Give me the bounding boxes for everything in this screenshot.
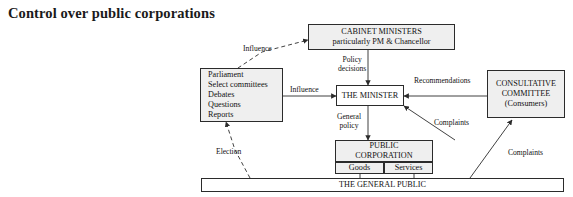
edge-label-influence-cabinet: Influence [243, 44, 272, 53]
node-parliament-line-3: Debates [208, 90, 234, 100]
node-committee-line-1: CONSULTATIVE [496, 79, 556, 89]
node-cabinet-line-2: particularly PM & Chancellor [333, 37, 431, 47]
edge-label-policy: Policy decisions [338, 56, 366, 73]
node-consultative-committee[interactable]: CONSULTATIVE COMMITTEE (Consumers) [487, 70, 565, 118]
edge-label-general-policy-text: General policy [337, 113, 361, 130]
node-parliament-line-2: Select committees [208, 80, 268, 90]
node-parliament-line-1: Parliament [208, 70, 243, 80]
edge-label-policy-decisions: Policy decisions [338, 56, 366, 73]
node-goods[interactable]: Goods [335, 162, 384, 174]
node-services-label: Services [395, 163, 423, 173]
node-parliament-line-4: Questions [208, 100, 241, 110]
edge-label-general-policy: General policy [337, 113, 361, 130]
node-committee-line-3: (Consumers) [505, 99, 547, 109]
page-title: Control over public corporations [8, 5, 215, 22]
edge-label-influence-minister: Influence [290, 85, 319, 94]
node-general-public[interactable]: THE GENERAL PUBLIC [201, 178, 564, 192]
node-cabinet-line-1: CABINET MINISTERS [341, 27, 422, 37]
node-parliament-line-5: Reports [208, 110, 233, 120]
node-general-public-label: THE GENERAL PUBLIC [339, 180, 426, 190]
edge-label-election: Election [216, 147, 241, 156]
node-services[interactable]: Services [384, 162, 433, 174]
edge-label-complaints-to-minister: Complaints [434, 118, 469, 127]
node-parliament[interactable]: Parliament Select committees Debates Que… [200, 68, 283, 122]
node-public-corporation[interactable]: PUBLIC CORPORATION [335, 140, 433, 162]
edge-label-complaints-from-public: Complaints [508, 148, 543, 157]
node-goods-label: Goods [349, 163, 370, 173]
diagram-canvas: Control over public corporations CABINET… [0, 0, 573, 197]
connector-public-to-committee [470, 120, 512, 178]
node-cabinet-ministers[interactable]: CABINET MINISTERS particularly PM & Chan… [308, 24, 455, 50]
node-corporation-line-2: CORPORATION [355, 151, 412, 161]
edge-label-recommendations: Recommendations [414, 76, 471, 85]
node-committee-line-2: COMMITTEE [502, 89, 551, 99]
node-corporation-line-1: PUBLIC [369, 141, 398, 151]
node-minister-line-1: THE MINISTER [342, 91, 399, 101]
node-the-minister[interactable]: THE MINISTER [336, 85, 404, 106]
